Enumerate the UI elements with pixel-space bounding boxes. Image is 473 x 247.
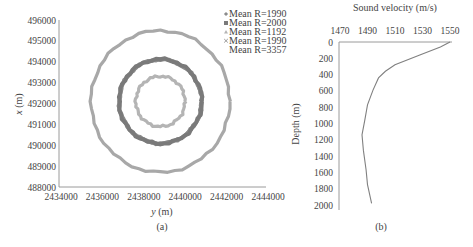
ring-data	[90, 30, 230, 172]
b-caption: (b)	[375, 221, 387, 233]
b-y-tick: 400	[319, 70, 334, 80]
b-y-tick: 1400	[314, 152, 333, 162]
b-x-tick: 1510	[386, 26, 405, 36]
a-x-tick: 2444000	[251, 192, 285, 202]
b-x-tick: 1470	[331, 26, 350, 36]
a-y-tick: 490000	[28, 141, 57, 151]
legend: Mean R=1990Mean R=2000Mean R=1192Mean R=…	[224, 8, 287, 55]
a-x-tick: 2442000	[210, 192, 244, 202]
a-x-axis-label: y (m)	[150, 206, 172, 218]
a-x-tick: 2438000	[127, 192, 161, 202]
legend-marker-icon	[224, 30, 228, 34]
b-y-tick: 1200	[314, 135, 333, 145]
b-y-tick: 800	[319, 103, 334, 113]
b-x-tick-labels: 14701490151015301550	[331, 26, 460, 36]
legend-marker-icon	[224, 12, 228, 16]
b-x-tick: 1490	[358, 26, 377, 36]
b-title: Sound velocity (m/s)	[353, 2, 437, 14]
legend-label: Mean R=3357	[229, 44, 287, 55]
ring-series	[90, 30, 230, 172]
a-y-axis-label: x (m)	[13, 93, 25, 115]
a-y-tick: 494000	[28, 57, 57, 67]
ring-series	[119, 58, 202, 144]
a-y-tick: 492000	[28, 99, 57, 109]
a-caption: (a)	[156, 221, 167, 233]
b-y-axis-label: Depth (m)	[290, 103, 302, 144]
b-x-tick: 1530	[413, 26, 432, 36]
ring-series	[135, 76, 186, 127]
a-x-tick: 2436000	[86, 192, 120, 202]
b-x-tick: 1550	[441, 26, 460, 36]
a-y-tick: 488000	[28, 183, 57, 193]
a-x-tick-labels: 2434000243600024380002440000244200024440…	[44, 192, 285, 202]
a-y-tick-labels: 4960004950004940004930004920004910004900…	[28, 16, 57, 193]
a-x-tick: 2434000	[44, 192, 78, 202]
figure: 4960004950004940004930004920004910004900…	[0, 0, 473, 247]
b-y-tick: 1600	[314, 168, 333, 178]
b-y-tick: 200	[319, 54, 334, 64]
a-x-tick: 2440000	[169, 192, 203, 202]
panel-a-ring-plot: 4960004950004940004930004920004910004900…	[13, 8, 287, 233]
b-y-tick: 1000	[314, 119, 333, 129]
b-y-tick: 2000	[314, 201, 333, 211]
a-y-tick: 496000	[28, 16, 57, 26]
b-y-tick: 1800	[314, 184, 333, 194]
panel-b-velocity-profile: Sound velocity (m/s) 1470149015101530155…	[290, 2, 460, 233]
a-y-tick: 495000	[28, 36, 57, 46]
legend-marker-icon	[224, 39, 228, 43]
a-y-tick: 491000	[28, 120, 57, 130]
legend-marker-icon	[224, 21, 228, 25]
b-y-tick: 0	[328, 38, 333, 48]
a-y-tick: 493000	[28, 78, 57, 88]
b-y-tick-labels: 0200400600800100012001400160018002000	[314, 38, 333, 211]
b-y-tick: 600	[319, 86, 334, 96]
a-y-tick: 489000	[28, 162, 57, 172]
velocity-profile-line	[362, 42, 450, 203]
